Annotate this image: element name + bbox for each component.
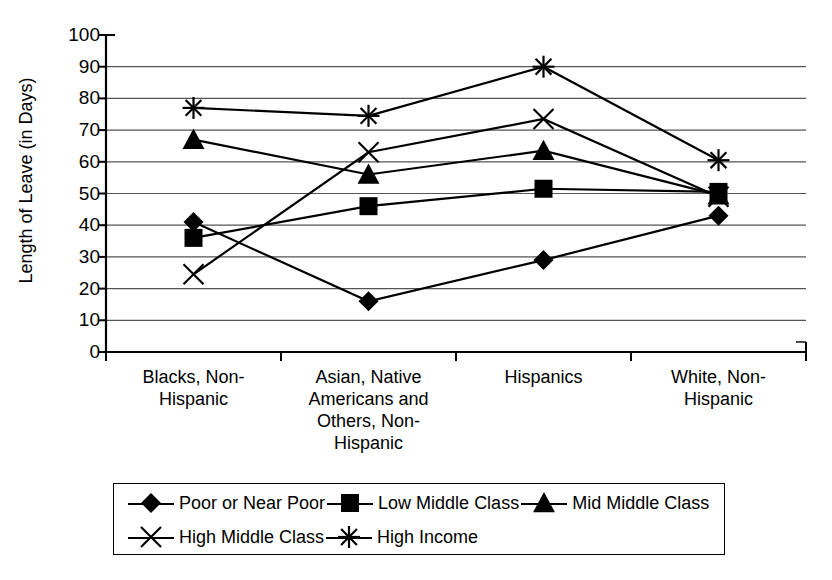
legend-marker-triangle-icon — [531, 492, 557, 514]
legend-item-label: Mid Middle Class — [567, 493, 711, 514]
data-point-marker-triangle — [533, 492, 555, 512]
legend-item-label: High Income — [372, 527, 480, 548]
x-axis-tick-label: Asian, NativeAmericans andOthers, Non-Hi… — [281, 366, 456, 454]
data-point-marker-triangle — [183, 129, 205, 149]
series-lines — [194, 67, 719, 302]
x-axis-tick-label-line: Hispanic — [631, 388, 806, 410]
legend-row: High Middle ClassHigh Income — [114, 519, 738, 555]
data-point-marker-asterisk — [533, 56, 555, 78]
x-axis-tick-label-line: White, Non- — [631, 366, 806, 388]
x-axis-tick-label-line: Others, Non- — [281, 410, 456, 432]
data-point-marker-asterisk — [708, 149, 730, 171]
data-point-marker-square — [185, 229, 203, 247]
x-axis-tick-label-line: Hispanic — [106, 388, 281, 410]
legend-key-x-icon — [128, 527, 174, 547]
legend-key-asterisk-icon — [326, 527, 372, 547]
data-point-marker-x — [141, 527, 161, 547]
legend-marker-x-icon — [138, 526, 164, 548]
legend-item-label: High Middle Class — [174, 527, 326, 548]
data-point-marker-asterisk — [358, 105, 380, 127]
legend-item[interactable]: Poor or Near Poor — [128, 485, 327, 521]
legend-marker-asterisk-icon — [336, 526, 362, 548]
x-axis-tick-label-line: Hispanic — [281, 432, 456, 454]
legend-item-label: Low Middle Class — [373, 493, 521, 514]
x-axis-tick-label-line: Blacks, Non- — [106, 366, 281, 388]
legend-item[interactable]: Mid Middle Class — [521, 485, 711, 521]
data-point-marker-asterisk — [338, 526, 360, 548]
data-point-marker-square — [360, 197, 378, 215]
legend-key-triangle-icon — [521, 493, 567, 513]
x-axis-tick-label-line: Americans and — [281, 388, 456, 410]
data-point-marker-diamond — [709, 206, 729, 226]
data-point-marker-diamond — [359, 291, 379, 311]
legend-key-square-icon — [327, 493, 373, 513]
x-axis-tick-label-line: Hispanics — [456, 366, 631, 388]
legend: Poor or Near PoorLow Middle ClassMid Mid… — [113, 483, 725, 555]
legend-marker-diamond-icon — [138, 492, 164, 514]
data-point-marker-diamond — [534, 250, 554, 270]
legend-item-label: Poor or Near Poor — [174, 493, 327, 514]
data-point-marker-square — [535, 180, 553, 198]
series-line — [194, 189, 719, 238]
legend-item[interactable]: Low Middle Class — [327, 485, 521, 521]
line-chart: Length of Leave (in Days) 01020304050607… — [0, 0, 832, 580]
data-point-marker-asterisk — [183, 97, 205, 119]
data-point-marker-square — [341, 494, 359, 512]
series-line — [194, 140, 719, 195]
data-point-marker-x — [359, 142, 379, 162]
data-point-marker-triangle — [533, 140, 555, 160]
legend-item[interactable]: High Income — [326, 519, 480, 555]
x-axis-tick-label-line: Asian, Native — [281, 366, 456, 388]
legend-row: Poor or Near PoorLow Middle ClassMid Mid… — [114, 485, 738, 521]
data-point-marker-diamond — [141, 493, 161, 513]
legend-item[interactable]: High Middle Class — [128, 519, 326, 555]
x-axis-tick-label: White, Non-Hispanic — [631, 366, 806, 410]
series-markers — [183, 56, 730, 312]
x-axis-tick-label: Blacks, Non-Hispanic — [106, 366, 281, 410]
x-axis-tick-label: Hispanics — [456, 366, 631, 388]
data-point-marker-x — [184, 264, 204, 284]
data-point-marker-x — [534, 109, 554, 129]
legend-key-diamond-icon — [128, 493, 174, 513]
series-line — [194, 67, 719, 161]
legend-marker-square-icon — [337, 492, 363, 514]
